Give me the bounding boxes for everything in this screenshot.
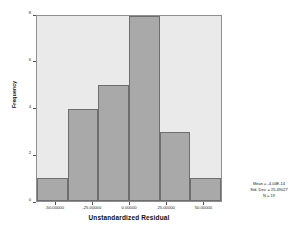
y-tick-label: 2 xyxy=(29,151,31,155)
y-tick-0: 0 xyxy=(0,202,36,203)
table-row xyxy=(98,85,129,201)
table-row xyxy=(68,109,99,202)
table-row xyxy=(190,178,221,201)
x-tick-label: -50.00000 xyxy=(45,206,64,210)
y-tick-8: 8 xyxy=(0,15,36,16)
x-tick-label: 25.00000 xyxy=(157,206,174,210)
x-axis-title: Unstandardized Residual xyxy=(36,214,222,221)
y-axis: 0 2 4 6 8 xyxy=(0,15,36,202)
y-tick-label: 8 xyxy=(29,11,31,15)
x-tick-label: -25.00000 xyxy=(82,206,101,210)
y-axis-title: Frequency xyxy=(11,81,17,108)
stat-n: N = 19 xyxy=(240,193,298,199)
table-row xyxy=(160,132,191,201)
y-tick-2: 2 xyxy=(0,155,36,156)
x-tick-label: 0.00000 xyxy=(121,206,136,210)
y-tick-4: 4 xyxy=(0,109,36,110)
y-tick-label: 4 xyxy=(29,105,31,109)
table-row xyxy=(37,178,68,201)
histogram-chart: 0 2 4 6 8 Frequency xyxy=(0,0,302,235)
y-tick-6: 6 xyxy=(0,62,36,63)
y-tick-label: 0 xyxy=(29,198,31,202)
plot-inner xyxy=(37,16,221,201)
plot-area xyxy=(36,15,222,202)
bar-series xyxy=(37,16,221,201)
table-row xyxy=(129,16,160,201)
y-tick-label: 6 xyxy=(29,58,31,62)
statistics-annotation: Mean = -4.04E-14 Std. Dev. = 25.49027 N … xyxy=(240,181,298,198)
x-tick-label: 50.00000 xyxy=(195,206,212,210)
